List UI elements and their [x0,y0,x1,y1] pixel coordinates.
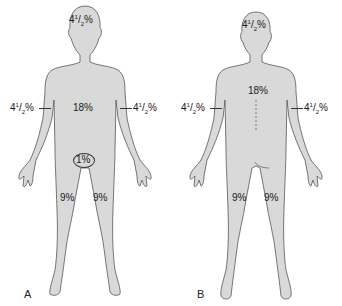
figure-anterior: 41/2% 18% 41/2% 41/2% 1% 9% 9% A [0,0,171,306]
leader-line-left-arm-a [120,108,132,109]
body-outline-posterior [171,0,342,306]
label-trunk-a: 18% [73,103,93,113]
leader-line-right-arm-a [39,108,51,109]
label-right-arm-b: 41/2% [181,103,205,113]
label-head-b: 41/2% [242,20,266,30]
label-genitalia-a: 1% [76,155,90,165]
label-left-leg-b: 9% [264,193,278,203]
label-right-arm-a: 41/2% [10,103,34,113]
label-left-leg-a: 9% [93,193,107,203]
label-right-leg-a: 9% [60,193,74,203]
label-left-arm-b: 41/2% [304,103,328,113]
leader-line-left-arm-b [291,108,303,109]
leader-line-right-arm-b [210,108,222,109]
label-head-a: 41/2% [69,15,93,25]
panel-letter-b: B [197,288,204,300]
label-left-arm-a: 41/2% [133,103,157,113]
panel-letter-a: A [24,288,31,300]
label-right-leg-b: 9% [232,193,246,203]
label-trunk-b: 18% [248,86,268,96]
figure-posterior: 41/2% 18% 41/2% 41/2% 9% 9% B [171,0,342,306]
